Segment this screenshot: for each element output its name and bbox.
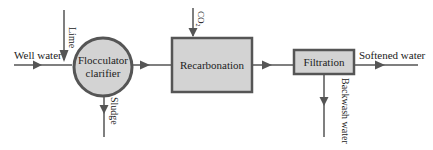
lime-stream: Lime [60, 10, 79, 62]
arrow-right-icon [140, 61, 150, 70]
sludge-label: Sludge [109, 97, 120, 125]
lime-label: Lime [67, 27, 78, 49]
recarbonation-label: Recarbonation [180, 59, 245, 71]
well-water-label: Well water [14, 49, 62, 61]
flow-recarb-to-filtration [252, 61, 294, 70]
arrow-down-icon [189, 28, 198, 37]
filtration-label: Filtration [304, 56, 345, 68]
softened-water-stream: Softened water [354, 49, 426, 70]
co2-label: CO2 [195, 11, 206, 27]
arrow-right-icon [375, 61, 385, 70]
filtration-node: Filtration [294, 50, 354, 74]
softened-water-label: Softened water [359, 49, 426, 61]
recarbonation-node: Recarbonation [172, 38, 252, 92]
process-flow-diagram: Well water Lime Flocculator clarifier Sl… [0, 0, 433, 150]
flocculator-label-line2: clarifier [86, 67, 121, 79]
arrow-right-icon [262, 61, 272, 70]
arrow-down-icon [320, 97, 329, 106]
flocculator-label-line1: Flocculator [78, 54, 128, 66]
backwash-water-stream: Backwash water [320, 74, 352, 144]
co2-stream: CO2 [189, 8, 207, 37]
flocculator-clarifier-node: Flocculator clarifier [74, 38, 132, 96]
flow-floc-to-recarb [132, 61, 172, 70]
arrow-down-icon [100, 105, 109, 114]
sludge-stream: Sludge [100, 96, 121, 137]
backwash-water-label: Backwash water [340, 78, 351, 144]
arrow-right-icon [33, 61, 42, 70]
